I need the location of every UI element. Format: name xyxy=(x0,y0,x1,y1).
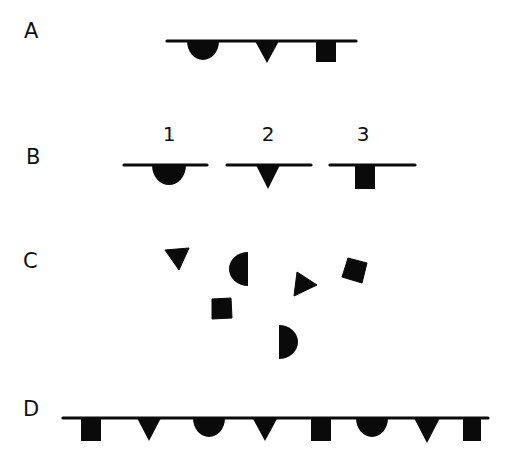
triangle-shape-d-4 xyxy=(253,418,278,441)
scattered-shape-c-3 xyxy=(212,298,232,319)
scattered-shape-c-5 xyxy=(342,258,367,283)
triangle-shape-d-2 xyxy=(137,418,161,441)
half-circle-shape-c-6 xyxy=(279,325,298,359)
half-circle-shape-d-6 xyxy=(356,418,388,437)
triangle-shape-d-7 xyxy=(414,418,440,443)
half-circle-shape-c-2 xyxy=(229,252,248,286)
half-circle-shape-a-1 xyxy=(187,41,219,60)
shapes-layer xyxy=(0,0,510,458)
diagram-canvas: A B C D 1 2 3 xyxy=(0,0,510,458)
square-shape-d-1 xyxy=(81,418,101,441)
triangle-shape-a-2 xyxy=(255,41,279,63)
half-circle-shape-d-3 xyxy=(193,418,225,437)
scattered-shape-c-4 xyxy=(294,272,317,296)
square-shape-d-8 xyxy=(463,418,481,441)
triangle-shape-b-2 xyxy=(256,165,280,189)
square-shape-b-3 xyxy=(355,165,375,189)
square-shape-d-5 xyxy=(311,418,331,441)
scattered-shape-c-1 xyxy=(165,248,189,270)
half-circle-shape-b-1 xyxy=(152,165,186,185)
square-shape-a-3 xyxy=(316,41,336,62)
